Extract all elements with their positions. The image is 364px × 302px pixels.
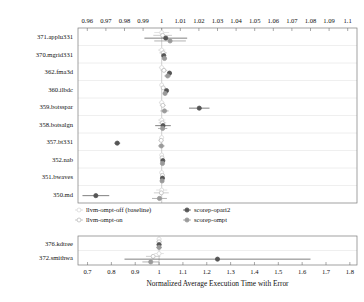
xtick-label-lower: 0.7 [83, 268, 92, 275]
data-point [94, 194, 98, 198]
data-point [163, 91, 167, 95]
legend-label: llvm-ompt-off (baseline) [86, 206, 151, 214]
xtick-label-lower: 0.9 [131, 268, 140, 275]
series-scorep-opari2 [82, 36, 209, 198]
legend-label: scorep-ompt [194, 216, 227, 223]
xtick-label-upper: 1.09 [323, 17, 335, 24]
data-point [157, 245, 161, 249]
xtick-label-lower: 1.6 [298, 268, 307, 275]
data-point [197, 106, 201, 110]
xtick-label-upper: 1 [160, 17, 163, 24]
lower-panel: 0.70.80.911.11.21.31.41.51.61.71.8376.kd… [39, 236, 357, 288]
xtick-label-upper: 0.97 [100, 17, 112, 24]
xtick-label-lower: 1.5 [274, 268, 283, 275]
xtick-label-lower: 1.1 [179, 268, 187, 275]
xtick-label-upper: 1.03 [212, 17, 224, 24]
data-point [168, 39, 172, 43]
ycategory-label-upper: 350.md [53, 191, 74, 198]
legend-marker [185, 208, 189, 212]
data-point [151, 254, 155, 258]
legend-marker [77, 208, 81, 212]
data-point [159, 191, 163, 195]
xtick-label-upper: 1.04 [230, 17, 242, 24]
ycategory-label-upper: 360.ilbdc [48, 86, 73, 93]
chart-legend: llvm-ompt-off (baseline)llvm-ompt-onscor… [75, 206, 230, 223]
xtick-label-upper: 1.05 [249, 17, 261, 24]
data-point [166, 74, 170, 78]
xtick-label-upper: 1.1 [344, 17, 352, 24]
xtick-label-lower: 1.7 [322, 268, 331, 275]
ycategory-label-upper: 358.botsalgn [39, 121, 74, 128]
data-point [157, 252, 161, 256]
ycategory-label-upper: 371.applu331 [37, 33, 73, 40]
ycategory-label-lower: 376.kdtree [45, 240, 73, 247]
xtick-label-upper: 0.96 [82, 17, 94, 24]
ycategory-label-lower: 372.smithwa [39, 254, 73, 261]
ycategory-label-upper: 357.bt331 [46, 138, 73, 145]
ycategory-label-upper: 359.botsspar [39, 103, 73, 110]
legend-label: llvm-ompt-on [86, 216, 123, 223]
legend-marker [77, 218, 81, 222]
xtick-label-lower: 0.8 [107, 268, 116, 275]
xtick-label-upper: 1.08 [305, 17, 317, 24]
xtick-label-lower: 1 [157, 268, 160, 275]
forest-plot-svg: 0.960.970.980.9911.011.021.031.041.051.0… [0, 0, 364, 302]
xtick-label-lower: 1.2 [203, 268, 211, 275]
legend-label: scorep-opari2 [194, 206, 230, 213]
data-point [162, 109, 166, 113]
ycategory-label-upper: 370.mgrid331 [36, 51, 73, 58]
data-point [161, 126, 165, 130]
data-point [162, 56, 166, 60]
data-point [159, 144, 163, 148]
xtick-label-upper: 1.07 [286, 17, 298, 24]
xtick-label-upper: 0.98 [119, 17, 131, 24]
chart-figure: 0.960.970.980.9911.011.021.031.041.051.0… [0, 0, 364, 302]
ycategory-label-upper: 362.fma3d [45, 68, 74, 75]
data-point [115, 141, 119, 145]
xtick-label-lower: 1.4 [250, 268, 259, 275]
data-point [162, 68, 166, 72]
data-point [160, 179, 164, 183]
data-point [215, 257, 219, 261]
data-point [157, 196, 161, 200]
xtick-label-upper: 1.02 [193, 17, 205, 24]
data-point [161, 103, 165, 107]
legend-marker [185, 218, 189, 222]
xtick-label-upper: 1.01 [175, 17, 187, 24]
xtick-label-lower: 1.8 [346, 268, 355, 275]
xtick-label-lower: 1.3 [226, 268, 235, 275]
ycategory-label-upper: 352.nab [52, 156, 74, 163]
upper-panel: 0.960.970.980.9911.011.021.031.041.051.0… [36, 17, 357, 203]
ycategory-label-upper: 351.bwaves [42, 173, 74, 180]
x-axis-title: Normalized Average Execution Time with E… [146, 279, 289, 288]
data-point [164, 36, 168, 40]
data-point [149, 260, 153, 264]
data-point [159, 138, 163, 142]
xtick-label-upper: 1.06 [268, 17, 280, 24]
xtick-label-upper: 0.99 [137, 17, 149, 24]
data-point [160, 161, 164, 165]
